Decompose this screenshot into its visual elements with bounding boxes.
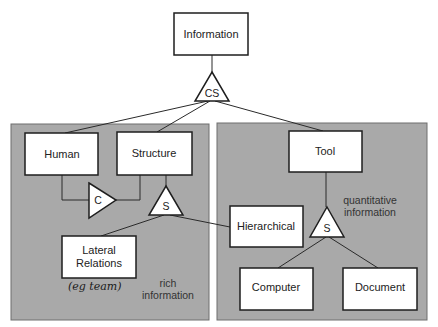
node-lateral-label-line2: Relations [76,257,122,269]
node-hierarchical: Hierarchical [230,206,303,247]
node-human-label: Human [44,148,79,160]
annotation-quantitative-information: quantitative information [343,194,397,218]
annotation-rich-line1: rich [160,277,177,289]
node-computer: Computer [240,268,313,310]
information-diagram: Information CS Human Structure Tool C S … [0,0,438,327]
connector-s-left-label: S [162,200,169,212]
connector-cs-triangle: CS [195,72,229,101]
node-structure-label: Structure [132,147,177,159]
node-lateral-relations: Lateral Relations [62,236,136,278]
node-tool-label: Tool [315,145,335,157]
connector-cs-label: CS [205,87,220,99]
node-structure: Structure [117,132,192,175]
connector-s-right-label: S [323,222,330,234]
node-human: Human [25,133,98,175]
annotation-quant-line2: information [344,206,396,218]
node-computer-label: Computer [252,281,301,293]
node-document-label: Document [355,281,405,293]
node-tool: Tool [289,131,362,172]
node-document: Document [343,268,417,310]
annotation-quant-line1: quantitative [343,194,397,206]
node-lateral-label-line1: Lateral [82,244,116,256]
annotation-rich-line2: information [142,289,194,301]
connector-c-label: C [94,194,102,206]
node-information-label: Information [183,28,238,40]
node-hierarchical-label: Hierarchical [237,220,295,232]
handwritten-note: (eg team) [68,280,122,293]
node-information: Information [174,13,248,55]
